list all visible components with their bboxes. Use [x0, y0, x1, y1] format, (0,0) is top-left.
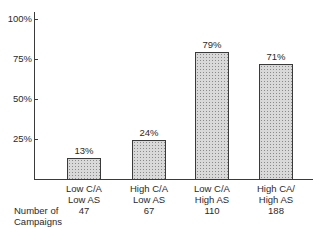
category-line1: High C/A — [121, 183, 177, 194]
campaign-count: 188 — [248, 205, 304, 216]
category-line1: High CA/ — [248, 183, 304, 194]
y-tick-75 — [34, 59, 38, 60]
category-line2: High AS — [248, 194, 304, 205]
campaign-count: 110 — [184, 205, 240, 216]
y-tick-label: 50% — [13, 94, 32, 104]
bar-low-ca-low-as — [67, 158, 101, 180]
category-line2: Low AS — [121, 194, 177, 205]
y-tick-label: 25% — [13, 134, 32, 144]
category-line2: Low AS — [56, 194, 112, 205]
category-label: Low C/A High AS 110 — [184, 183, 240, 216]
bar-value-label: 71% — [256, 52, 296, 62]
bar-low-ca-high-as — [195, 52, 229, 180]
bar-chart: 100% 75% 50% 25% 13% Low C/A Low AS 47 2… — [0, 0, 319, 228]
category-label: Low C/A Low AS 47 — [56, 183, 112, 216]
bar-value-label: 13% — [64, 146, 104, 156]
category-label: High CA/ High AS 188 — [248, 183, 304, 216]
category-line2: High AS — [184, 194, 240, 205]
y-tick-50 — [34, 99, 38, 100]
y-tick-label: 75% — [13, 54, 32, 64]
y-tick-label: 100% — [8, 14, 32, 24]
category-label: High C/A Low AS 67 — [121, 183, 177, 216]
row-label-line2: Campaigns — [14, 216, 62, 227]
bar-high-ca-high-as — [259, 64, 293, 180]
campaign-count: 67 — [121, 205, 177, 216]
category-line1: Low C/A — [56, 183, 112, 194]
campaign-count: 47 — [56, 205, 112, 216]
row-label-line1: Number of — [14, 205, 62, 216]
bar-value-label: 79% — [192, 40, 232, 50]
bar-value-label: 24% — [129, 128, 169, 138]
y-axis — [34, 12, 35, 179]
number-of-campaigns-label: Number of Campaigns — [14, 205, 62, 227]
bar-high-ca-low-as — [132, 140, 166, 180]
y-tick-100 — [34, 19, 38, 20]
category-line1: Low C/A — [184, 183, 240, 194]
y-tick-25 — [34, 139, 38, 140]
